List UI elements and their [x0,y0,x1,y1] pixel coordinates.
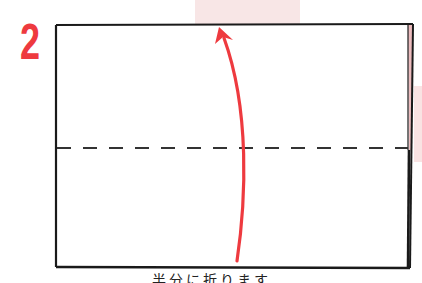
paper-sheet [56,24,413,268]
fold-up-arrow-icon [215,27,244,261]
instruction-caption: 半分に折ります [0,272,422,283]
fold-diagram [0,0,422,283]
